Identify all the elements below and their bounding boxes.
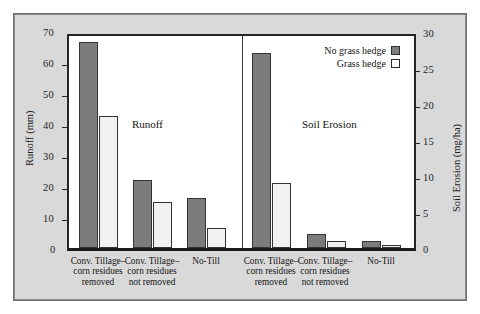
bar-erosion-no-grass-hedge-1	[252, 53, 271, 248]
y-tickmark-right-25	[415, 71, 420, 72]
y-tick-right-0: 0	[423, 244, 428, 255]
panel-divider	[242, 36, 243, 248]
y-tickmark-right-10	[415, 179, 420, 180]
panel-title-soil-erosion: Soil Erosion	[302, 118, 357, 130]
bar-erosion-grass-hedge-3	[382, 245, 401, 248]
legend: No grass hedge Grass hedge	[324, 44, 400, 70]
bar-runoff-no-grass-hedge-3	[187, 198, 206, 248]
y-tick-right-30: 30	[423, 28, 434, 39]
bar-erosion-no-grass-hedge-3	[362, 241, 381, 248]
y-tick-right-15: 15	[423, 136, 434, 147]
y-tick-left-20: 20	[43, 182, 54, 193]
y-tickmark-right-5	[415, 215, 420, 216]
y-axis-left-title: Runoff (mm)	[24, 110, 35, 166]
bar-runoff-no-grass-hedge-1	[79, 42, 98, 248]
legend-swatch-icon-grass-hedge	[391, 59, 400, 68]
legend-label-grass-hedge: Grass hedge	[337, 58, 386, 69]
chart-figure: Runoff Soil Erosion	[13, 13, 467, 301]
y-tickmark-left-30	[62, 158, 67, 159]
y-tick-right-25: 25	[423, 64, 434, 75]
y-axis-right-title: Soil Erosion (mg/ha)	[451, 124, 462, 212]
legend-entry-grass-hedge: Grass hedge	[324, 57, 400, 70]
panel-title-runoff: Runoff	[132, 118, 163, 130]
bar-runoff-grass-hedge-1	[99, 116, 118, 248]
y-tickmark-left-60	[62, 65, 67, 66]
y-tickmark-left-50	[62, 96, 67, 97]
bar-runoff-no-grass-hedge-2	[133, 180, 152, 248]
y-tick-left-10: 10	[43, 213, 54, 224]
y-tick-left-60: 60	[43, 58, 54, 69]
x-label-erosion-3: No-Till	[345, 256, 417, 266]
bar-runoff-grass-hedge-2	[153, 202, 172, 248]
bar-runoff-grass-hedge-3	[207, 228, 226, 248]
legend-entry-no-grass-hedge: No grass hedge	[324, 44, 400, 57]
y-tick-left-70: 70	[43, 27, 54, 38]
legend-label-no-grass-hedge: No grass hedge	[324, 45, 386, 56]
y-tick-left-30: 30	[43, 151, 54, 162]
x-label-runoff-3: No-Till	[170, 256, 242, 266]
bar-erosion-no-grass-hedge-2	[307, 234, 326, 249]
y-tickmark-right-15	[415, 143, 420, 144]
y-tick-right-5: 5	[423, 208, 428, 219]
bar-erosion-grass-hedge-2	[327, 241, 346, 248]
y-tick-right-10: 10	[423, 172, 434, 183]
bar-erosion-grass-hedge-1	[272, 183, 291, 248]
y-tickmark-left-10	[62, 220, 67, 221]
legend-swatch-icon-no-grass-hedge	[391, 46, 400, 55]
y-tick-left-40: 40	[43, 120, 54, 131]
y-tick-left-50: 50	[43, 89, 54, 100]
y-tickmark-left-40	[62, 127, 67, 128]
plot-area: Runoff Soil Erosion	[67, 34, 416, 251]
y-tick-right-20: 20	[423, 100, 434, 111]
y-tickmark-left-20	[62, 189, 67, 190]
y-tick-left-0: 0	[50, 244, 55, 255]
y-tickmark-right-20	[415, 107, 420, 108]
